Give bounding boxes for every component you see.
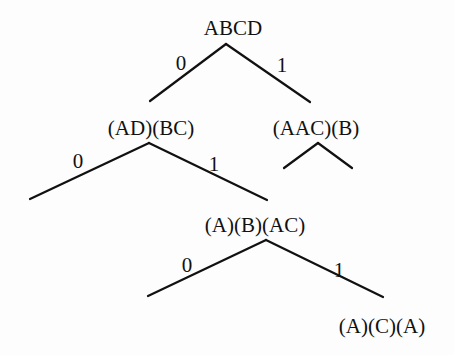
edge-root-1 <box>226 44 310 102</box>
node-root-label: ABCD <box>204 18 262 39</box>
edge-label-adbc-0: 0 <box>73 151 84 172</box>
tree-diagram: ABCD (AD)(BC) (AAC)(B) (A)(B)(AC) (A)(C)… <box>0 0 454 355</box>
edge-abac-0 <box>148 240 266 296</box>
edge-label-adbc-1: 1 <box>209 154 220 175</box>
edge-root-0 <box>150 44 226 101</box>
edge-label-root-0: 0 <box>176 53 187 74</box>
edge-aacb-left <box>284 143 318 168</box>
edge-aacb-right <box>318 143 352 168</box>
node-aca-label: (A)(C)(A) <box>339 316 425 337</box>
edge-label-abac-0: 0 <box>182 255 193 276</box>
node-aacb-label: (AAC)(B) <box>273 118 359 139</box>
edge-adbc-0 <box>30 143 149 199</box>
edge-label-root-1: 1 <box>277 55 288 76</box>
tree-edges <box>0 0 454 355</box>
node-abac-label: (A)(B)(AC) <box>205 215 305 236</box>
edge-label-abac-1: 1 <box>334 260 345 281</box>
edge-abac-1 <box>266 240 383 297</box>
node-adbc-label: (AD)(BC) <box>108 118 194 139</box>
